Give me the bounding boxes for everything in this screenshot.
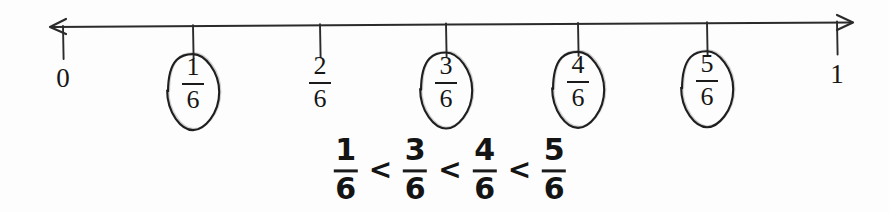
tick-label-7: 1 <box>830 59 844 90</box>
fraction-denominator: 6 <box>185 87 202 113</box>
fraction-numerator: 5 <box>544 135 565 166</box>
fraction-numerator: 4 <box>474 135 495 166</box>
fraction-denominator: 6 <box>335 174 356 205</box>
tick-label-value: 1 <box>830 59 844 89</box>
inequality-term-1: 16 <box>334 135 358 204</box>
fraction-denominator: 6 <box>312 86 329 112</box>
tick-label-value: 0 <box>56 63 70 93</box>
fraction-numerator: 3 <box>405 135 426 166</box>
tick-label-1: 0 <box>56 63 70 94</box>
fraction-numerator: 5 <box>699 51 716 77</box>
tick-mark <box>837 22 838 55</box>
fraction-numerator: 3 <box>438 53 455 79</box>
fraction-denominator: 6 <box>474 174 495 205</box>
tick-label-2: 16 <box>182 54 204 113</box>
fraction-numerator: 1 <box>185 54 202 80</box>
less-than-operator-1: < <box>369 156 392 184</box>
fraction-number-line-figure: 016263646561 16<36<46<56 <box>0 0 889 212</box>
number-line-axis <box>52 23 852 28</box>
less-than-operator-3: < <box>508 156 531 184</box>
inequality-term-3: 46 <box>473 135 497 204</box>
fraction: 26 <box>309 53 331 112</box>
less-than-operator-2: < <box>438 156 461 184</box>
fraction-denominator: 6 <box>544 174 565 205</box>
fraction-denominator: 6 <box>570 85 587 111</box>
tick-mark <box>63 26 64 59</box>
fraction-denominator: 6 <box>438 86 455 112</box>
fraction: 56 <box>696 51 718 110</box>
fraction-denominator: 6 <box>699 84 716 110</box>
inequality-statement: 16<36<46<56 <box>331 135 569 204</box>
tick-label-5: 46 <box>567 52 589 111</box>
fraction-numerator: 4 <box>570 52 587 78</box>
inequality-term-4: 56 <box>542 135 566 204</box>
fraction-numerator: 2 <box>312 53 329 79</box>
fraction-numerator: 1 <box>335 135 356 166</box>
inequality-term-2: 36 <box>403 135 427 204</box>
tick-label-3: 26 <box>309 53 331 112</box>
tick-label-4: 36 <box>435 53 457 112</box>
fraction: 46 <box>567 52 589 111</box>
fraction: 36 <box>435 53 457 112</box>
fraction: 16 <box>182 54 204 113</box>
tick-label-6: 56 <box>696 51 718 110</box>
fraction-denominator: 6 <box>405 174 426 205</box>
